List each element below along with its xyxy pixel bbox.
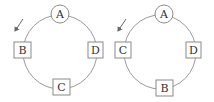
- left-ring: [23, 15, 97, 89]
- left-node-c-label: C: [57, 81, 65, 94]
- right-rotation-arrow-icon: [118, 19, 126, 31]
- right-node-d-label: D: [189, 44, 198, 57]
- left-node-d-label: D: [91, 44, 100, 57]
- right-node-b-label: B: [160, 82, 168, 95]
- right-node-c: C: [115, 42, 131, 58]
- left-node-b-label: B: [18, 44, 26, 57]
- right-node-a: A: [155, 5, 173, 23]
- left-node-c: C: [53, 79, 70, 95]
- left-cycle-diagram: A B D C: [14, 5, 103, 95]
- left-node-d: D: [88, 42, 103, 58]
- diagram-canvas: A B D C A C D B: [0, 0, 214, 102]
- left-node-a-label: A: [55, 8, 65, 21]
- right-cycle-diagram: A C D B: [115, 5, 201, 96]
- right-node-a-label: A: [159, 8, 169, 21]
- right-node-c-label: C: [119, 44, 127, 57]
- right-node-d: D: [186, 42, 201, 58]
- right-ring: [124, 15, 196, 89]
- left-node-a: A: [51, 5, 69, 23]
- left-node-b: B: [14, 42, 31, 58]
- left-rotation-arrow-icon: [15, 19, 23, 31]
- right-node-b: B: [156, 80, 173, 96]
